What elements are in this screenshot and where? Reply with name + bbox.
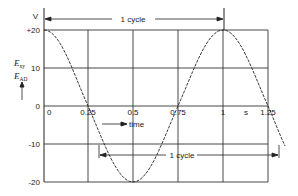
grid — [44, 30, 268, 182]
x-tick-labels: 0 0.25 0.5 0.75 1 1.25 — [47, 108, 276, 117]
x-unit-label: s — [244, 108, 248, 117]
x-tick: 0.25 — [80, 108, 96, 117]
cycle-bottom-label: 1 cycle — [170, 151, 195, 160]
time-label: time — [129, 120, 145, 129]
x-tick: 0.75 — [170, 108, 186, 117]
y-tick: 10 — [31, 64, 40, 73]
y-tick: -20 — [28, 178, 40, 187]
time-arrow — [102, 122, 127, 126]
x-tick: 1 — [221, 108, 226, 117]
y-label-ead: EAD — [13, 71, 27, 82]
waveform-diagram: 1 cycle 1 cycle +20 10 0 -10 -20 V Exy E… — [0, 0, 298, 196]
y-tick-labels: +20 10 0 -10 -20 — [26, 26, 40, 187]
y-tick: 0 — [36, 102, 41, 111]
x-tick: 0.5 — [127, 108, 139, 117]
up-arrow-icon — [20, 82, 24, 100]
y-tick: +20 — [26, 26, 40, 35]
x-tick: 0 — [47, 108, 52, 117]
y-unit-label: V — [33, 12, 39, 21]
x-tick: 1.25 — [260, 108, 276, 117]
cycle-top-label: 1 cycle — [121, 15, 146, 24]
y-label-exy: Exy — [13, 58, 25, 69]
y-tick: -10 — [28, 140, 40, 149]
